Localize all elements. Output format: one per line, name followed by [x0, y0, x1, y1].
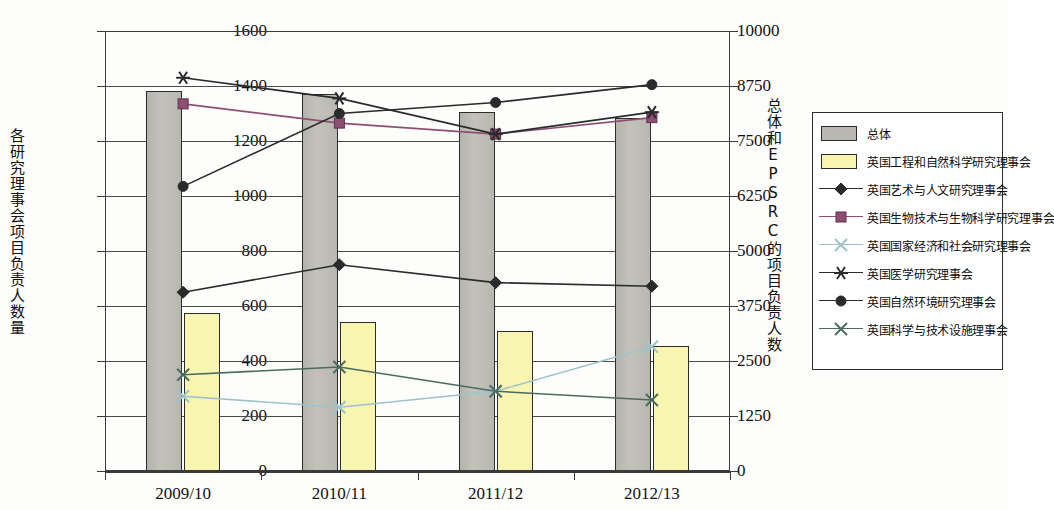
data-point-x — [835, 239, 847, 251]
x-tick-mark — [574, 471, 575, 480]
y-tick-mark-right — [729, 86, 738, 87]
data-point-square — [836, 212, 846, 222]
y-tick-mark-right — [729, 141, 738, 142]
data-point-asterisk — [834, 267, 848, 279]
legend-item[interactable]: 英国艺术与人文研究理事会 — [819, 175, 998, 203]
legend-swatch-icon — [821, 126, 857, 141]
x-tick-mark — [730, 471, 731, 480]
legend-key-icon — [819, 151, 863, 171]
y-tick-label-right: 10000 — [737, 21, 780, 41]
legend-marker-diamond-icon — [831, 179, 851, 199]
legend-marker-x-icon — [831, 235, 851, 255]
y-tick-label-right: 5000 — [737, 241, 771, 261]
legend-marker-asterisk-icon — [831, 263, 851, 283]
y-tick-label-right: 2500 — [737, 351, 771, 371]
y-tick-label-right: 8750 — [737, 76, 771, 96]
legend-marker-circle-icon — [831, 291, 851, 311]
legend-label: 英国艺术与人文研究理事会 — [867, 181, 1007, 198]
legend-item[interactable]: 英国工程和自然科学研究理事会 — [819, 147, 998, 175]
legend-key-icon — [819, 291, 863, 311]
y-tick-label-right: 0 — [737, 461, 746, 481]
legend-key-icon — [819, 179, 863, 199]
y-tick-mark-right — [729, 361, 738, 362]
legend-key-icon — [819, 319, 863, 339]
legend-label: 英国医学研究理事会 — [867, 265, 972, 282]
legend-item[interactable]: 英国科学与技术设施理事会 — [819, 315, 998, 343]
y-axis-left-title: 各研究理事会项目负责人数量 — [6, 128, 27, 428]
data-point-x — [835, 323, 847, 335]
y-tick-label-right: 1250 — [737, 406, 771, 426]
legend-item[interactable]: 英国自然环境研究理事会 — [819, 287, 998, 315]
x-tick-mark — [105, 471, 106, 480]
legend-label: 英国自然环境研究理事会 — [867, 293, 996, 310]
x-tick-label: 2009/10 — [155, 484, 211, 504]
x-tick-mark — [418, 471, 419, 480]
legend-item[interactable]: 英国生物技术与生物科学研究理事会 — [819, 203, 998, 231]
x-tick-label: 2011/12 — [468, 484, 523, 504]
x-tick-mark — [261, 471, 262, 480]
plot-border — [105, 31, 730, 471]
legend-key-icon — [819, 235, 863, 255]
legend-key-icon — [819, 207, 863, 227]
legend-label: 英国生物技术与生物科学研究理事会 — [867, 209, 1054, 226]
legend-swatch-icon — [821, 154, 857, 169]
data-point-diamond — [835, 183, 847, 195]
y-tick-mark-right — [729, 196, 738, 197]
y-tick-mark-right — [729, 251, 738, 252]
legend-label: 英国工程和自然科学研究理事会 — [867, 153, 1031, 170]
legend-key-icon — [819, 123, 863, 143]
legend-item[interactable]: 英国医学研究理事会 — [819, 259, 998, 287]
legend-label: 英国科学与技术设施理事会 — [867, 321, 1007, 338]
y-tick-label-right: 7500 — [737, 131, 771, 151]
y-tick-mark-right — [729, 416, 738, 417]
chart-legend: 总体英国工程和自然科学研究理事会英国艺术与人文研究理事会英国生物技术与生物科学研… — [812, 112, 1003, 370]
y-tick-label-right: 3750 — [737, 296, 771, 316]
legend-item[interactable]: 英国国家经济和社会研究理事会 — [819, 231, 998, 259]
legend-item[interactable]: 总体 — [819, 119, 998, 147]
data-point-circle — [836, 296, 846, 306]
legend-marker-x-icon — [831, 319, 851, 339]
legend-marker-square-icon — [831, 207, 851, 227]
y-tick-mark-right — [729, 306, 738, 307]
plot-area — [105, 31, 730, 471]
x-tick-label: 2012/13 — [624, 484, 680, 504]
y-tick-mark-right — [729, 31, 738, 32]
legend-label: 总体 — [867, 125, 890, 142]
legend-label: 英国国家经济和社会研究理事会 — [867, 237, 1031, 254]
x-tick-label: 2010/11 — [312, 484, 367, 504]
y-tick-label-right: 6250 — [737, 186, 771, 206]
legend-key-icon — [819, 263, 863, 283]
